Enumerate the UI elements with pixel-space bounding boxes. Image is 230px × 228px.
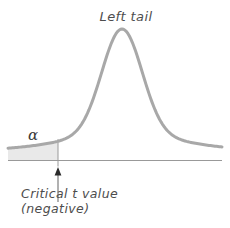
distribution-curve (8, 29, 222, 148)
arrow-head-icon (55, 167, 62, 176)
critical-value-text: Critical t value (21, 186, 118, 201)
left-tail-label: Left tail (92, 9, 160, 24)
negative-text: (negative) (21, 201, 118, 216)
critical-value-annotation: Critical t value (negative) (21, 186, 118, 216)
t-distribution-figure: Left tail α Critical t value (negative) (0, 0, 230, 228)
alpha-label: α (28, 126, 39, 144)
